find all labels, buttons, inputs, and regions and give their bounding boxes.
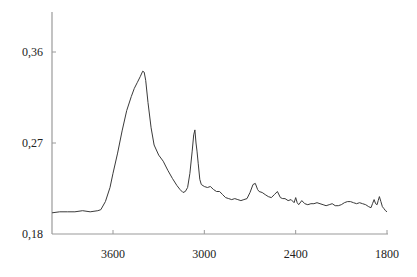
y-tick-label: 0,27 (22, 136, 43, 150)
spectrum-line (52, 71, 387, 213)
x-tick-label: 3600 (101, 247, 125, 261)
y-tick-label: 0,18 (22, 227, 43, 241)
x-tick-label: 3000 (192, 247, 216, 261)
spectrum-chart: 0,180,270,36 3600300024001800 (0, 0, 417, 277)
x-tick-label: 2400 (284, 247, 308, 261)
y-tick-label: 0,36 (22, 45, 43, 59)
x-tick-label: 1800 (375, 247, 399, 261)
